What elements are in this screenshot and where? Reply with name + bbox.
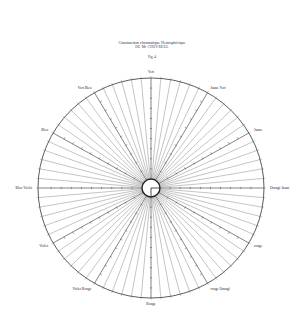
- scale-tick: [195, 110, 197, 111]
- ray-line: [153, 82, 180, 180]
- ray-line: [152, 78, 161, 179]
- ray-line: [157, 104, 224, 181]
- ray-line: [157, 194, 231, 265]
- scale-tick: [195, 265, 197, 266]
- ray-line: [78, 195, 145, 272]
- hue-label: rouge: [254, 244, 263, 248]
- ray-line: [159, 142, 253, 185]
- ray-line: [38, 189, 142, 198]
- scale-tick: [100, 101, 102, 102]
- ray-line: [78, 104, 145, 181]
- ray-line: [160, 189, 264, 198]
- ray-line: [158, 117, 238, 182]
- chromatic-circle: VertJaune VertJauneOrangé Jaunerougeroug…: [0, 0, 304, 334]
- hue-label: Vert: [148, 70, 154, 74]
- ray-line: [152, 197, 161, 298]
- ray-line: [103, 88, 147, 180]
- ray-line: [141, 78, 150, 179]
- scale-tick: [200, 101, 202, 102]
- ray-line: [155, 196, 199, 288]
- hue-label: Orangé Jaune: [270, 186, 290, 190]
- ray-line: [42, 160, 142, 186]
- scale-tick: [105, 265, 107, 266]
- ray-line: [42, 190, 142, 216]
- scale-tick: [73, 142, 74, 144]
- scale-tick: [228, 142, 229, 144]
- scale-tick: [237, 237, 238, 239]
- scale-tick: [100, 274, 102, 275]
- ray-line: [160, 160, 260, 186]
- hue-label: Jaune Vert: [211, 86, 226, 90]
- ray-line: [64, 194, 144, 259]
- hue-label: Rouge: [146, 302, 156, 306]
- ray-line: [103, 196, 147, 288]
- ray-line: [49, 192, 143, 235]
- ray-line: [64, 117, 144, 182]
- ray-line: [155, 88, 199, 180]
- scale-tick: [64, 237, 65, 239]
- hue-label: Bleu Violet: [16, 186, 32, 190]
- ray-line: [122, 197, 149, 295]
- ray-line: [160, 190, 260, 216]
- ray-line: [157, 110, 231, 181]
- ray-line: [158, 194, 238, 259]
- hue-label: Violet Rouge: [72, 287, 91, 291]
- scale-tick: [73, 232, 74, 234]
- ray-line: [49, 142, 143, 185]
- hue-label: Jaune: [254, 128, 263, 132]
- ray-line: [159, 192, 253, 235]
- ray-line: [38, 178, 142, 187]
- hue-label: Bleu: [41, 128, 48, 132]
- scale-tick: [200, 274, 202, 275]
- ray-line: [160, 178, 264, 187]
- ray-line: [141, 197, 150, 298]
- ray-line: [153, 197, 180, 295]
- hue-label: Vert Bleu: [78, 86, 92, 90]
- scale-tick: [64, 137, 65, 139]
- scale-tick: [105, 110, 107, 111]
- ray-line: [71, 194, 145, 265]
- hue-label: rouge Orangé: [211, 287, 231, 291]
- ray-line: [157, 195, 224, 272]
- scale-tick: [228, 232, 229, 234]
- ray-line: [122, 82, 149, 180]
- scale-tick: [237, 137, 238, 139]
- hue-label: Violet: [39, 244, 48, 248]
- ray-line: [71, 110, 145, 181]
